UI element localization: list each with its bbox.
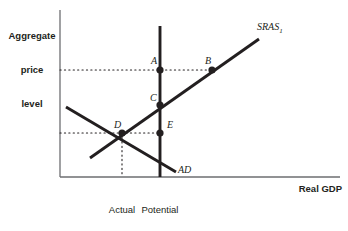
- point-label-b: B: [205, 55, 211, 67]
- point-label-d: D: [114, 119, 121, 131]
- curve-label-sras: SRAS1: [257, 21, 283, 35]
- axis-lines: [60, 10, 340, 177]
- y-axis-title-line1: Aggregate: [6, 30, 58, 41]
- point-label-e: E: [167, 119, 173, 131]
- y-axis-title-line2: price: [6, 64, 58, 75]
- curve-label-sras-subscript: 1: [279, 27, 283, 35]
- point-b-marker: [208, 66, 215, 73]
- curve-label-sras-text: SRAS: [257, 21, 279, 32]
- curves: [66, 26, 259, 177]
- y-axis-title: Aggregate price level: [6, 8, 58, 131]
- sras-curve: [90, 39, 259, 158]
- x-axis-title: Real GDP: [272, 183, 342, 194]
- tick-label-potential-output: Potential output Y: [130, 182, 190, 231]
- point-label-a: A: [151, 55, 157, 67]
- tick-potential-line1: Potential: [130, 204, 190, 215]
- y-axis-title-line3: level: [6, 98, 58, 109]
- point-label-c: C: [150, 92, 157, 104]
- ad-sras-diagram: Aggregate price level Real GDP Actual ou…: [0, 0, 348, 231]
- point-e-marker: [156, 129, 163, 136]
- point-a-marker: [156, 66, 163, 73]
- curve-label-ad: AD: [178, 164, 191, 176]
- point-c-marker: [156, 101, 163, 108]
